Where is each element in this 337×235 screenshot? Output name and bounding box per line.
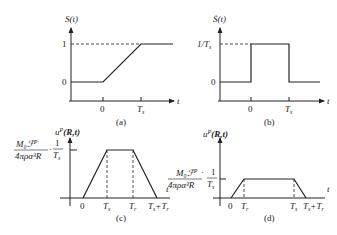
panel-a: S(t) 1 0 0 Ts t (a) bbox=[62, 14, 180, 127]
amp-frac-denominator: Ts bbox=[53, 150, 61, 161]
xtick-0: 0 bbox=[80, 201, 85, 211]
amp-frac-numerator: 1 bbox=[55, 138, 60, 148]
figure: S(t) 1 0 0 Ts t (a) Ṡ(t) 1/Ts 0 0 Ts t (… bbox=[0, 0, 337, 235]
xtick-Ts-plus-Tr: Ts+Tr bbox=[148, 201, 169, 212]
amp-dot: · bbox=[49, 144, 52, 154]
xtick-0: 0 bbox=[100, 104, 105, 114]
y-axis-label: Ṡ(t) bbox=[213, 14, 226, 24]
amp-frac-numerator: 1 bbox=[211, 167, 216, 177]
y-axis-label: S(t) bbox=[65, 14, 78, 24]
ytick-1: 1 bbox=[62, 39, 67, 49]
panel-d: uP(R,t) M₀ℱP 4πρα³R · 1 Ts 0 Tr Ts Ts+Tr… bbox=[168, 129, 330, 223]
amp-frac-denominator: Ts bbox=[207, 179, 215, 190]
amp-numerator: M₀ℱP bbox=[175, 168, 198, 178]
xtick-0: 0 bbox=[228, 201, 233, 211]
y-axis-label: uP(R,t) bbox=[55, 127, 80, 137]
panel-c: uP(R,t) M₀ℱP 4πρα³R · 1 Ts 0 Ts Tr Ts+Tr… bbox=[14, 127, 170, 223]
trapezoid-pulse bbox=[231, 179, 306, 198]
xtick-Tr: Tr bbox=[129, 201, 137, 212]
caption-c: (c) bbox=[116, 213, 126, 223]
amp-denominator: 4πρα³R bbox=[168, 180, 195, 190]
trapezoid-pulse bbox=[83, 150, 157, 198]
xtick-Ts: Ts bbox=[290, 201, 298, 212]
y-axis-label: uP(R,t) bbox=[203, 129, 228, 139]
panel-b: Ṡ(t) 1/Ts 0 0 Ts t (b) bbox=[197, 14, 330, 127]
xtick-0: 0 bbox=[248, 104, 253, 114]
amplitude-label: M₀ℱP 4πρα³R · 1 Ts bbox=[168, 167, 217, 190]
ytick-top: 1/Ts bbox=[197, 39, 212, 50]
amp-denominator: 4πρα³R bbox=[15, 151, 42, 161]
amp-dot: · bbox=[201, 167, 204, 177]
xtick-Ts: Ts bbox=[285, 104, 293, 115]
xtick-Ts: Ts bbox=[103, 201, 111, 212]
x-axis-label: t bbox=[177, 96, 180, 106]
xtick-Ts: Ts bbox=[137, 104, 145, 115]
caption-a: (a) bbox=[116, 117, 126, 127]
curve-S-dot bbox=[220, 44, 320, 82]
xtick-Ts-plus-Tr: Ts+Tr bbox=[303, 201, 324, 212]
curve-S bbox=[71, 44, 173, 82]
x-axis-label: t bbox=[327, 184, 330, 194]
ytick-0: 0 bbox=[211, 77, 216, 87]
xtick-Tr: Tr bbox=[241, 201, 249, 212]
caption-d: (d) bbox=[264, 213, 275, 223]
caption-b: (b) bbox=[264, 117, 275, 127]
amplitude-label: M₀ℱP 4πρα³R · 1 Ts bbox=[14, 138, 63, 161]
ytick-0: 0 bbox=[62, 77, 67, 87]
x-axis-label: t bbox=[327, 96, 330, 106]
amp-numerator: M₀ℱP bbox=[15, 139, 38, 149]
